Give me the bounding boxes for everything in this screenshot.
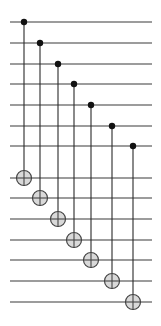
cnot-gate-3: [51, 61, 66, 227]
control-dot: [130, 143, 136, 149]
cnot-gate-5: [84, 102, 99, 268]
cnot-gate-4: [67, 81, 82, 248]
wires: [10, 22, 152, 302]
control-dot: [55, 61, 61, 67]
cnot-gate-6: [105, 123, 120, 289]
quantum-circuit: [0, 0, 161, 326]
cnot-gate-2: [33, 40, 48, 206]
control-dot: [109, 123, 115, 129]
control-dot: [88, 102, 94, 108]
cnot-gate-7: [126, 143, 141, 310]
cnot-gate-1: [17, 19, 32, 186]
control-dot: [21, 19, 27, 25]
control-dot: [71, 81, 77, 87]
control-dot: [37, 40, 43, 46]
